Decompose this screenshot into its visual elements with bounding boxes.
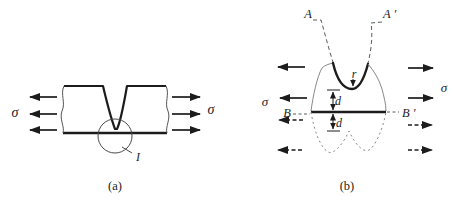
stress-arrows-right-b-dashed xyxy=(408,125,432,150)
blob-outline-bottom-dotted xyxy=(311,112,386,152)
radius-label: r xyxy=(352,67,357,81)
sigma-right-a: σ xyxy=(208,102,216,117)
plate-right-torn-edge xyxy=(166,86,169,133)
caption-b: (b) xyxy=(340,179,355,193)
depth-label-upper: d xyxy=(335,94,342,108)
sigma-right-b: σ xyxy=(441,80,448,95)
plate-top-edge-with-notch xyxy=(64,86,166,129)
figure-canvas: I σ σ (a) A A ′ xyxy=(0,0,454,209)
section-label-a-prime: A ′ xyxy=(382,7,397,21)
stress-arrows-right-b-solid xyxy=(408,68,433,98)
notch-flank-dashed-right xyxy=(368,22,382,63)
sigma-left-b: σ xyxy=(262,94,269,109)
section-label-b-prime: B ′ xyxy=(402,106,416,120)
blob-outline-top-left xyxy=(311,63,333,111)
inspection-circle xyxy=(98,119,132,153)
panel-a: I σ σ (a) xyxy=(12,86,216,193)
depth-label-lower: d xyxy=(336,116,343,130)
sigma-left-a: σ xyxy=(12,105,20,120)
notch-flank-dashed-left xyxy=(313,20,333,62)
caption-a: (a) xyxy=(108,179,122,193)
stress-arrows-left-a xyxy=(30,97,57,130)
stress-arrows-left-b-solid xyxy=(278,67,307,98)
stress-arrows-right-a xyxy=(172,97,200,130)
notch-stress-figure: I σ σ (a) A A ′ xyxy=(0,0,454,209)
notch-tip-curve xyxy=(333,63,368,89)
blob-outline-top-right xyxy=(368,64,386,111)
section-label-b: B xyxy=(283,106,291,120)
stress-arrows-left-b-dashed xyxy=(278,120,303,150)
plate-left-torn-edge xyxy=(61,86,64,133)
region-label: I xyxy=(135,150,141,164)
section-label-a: A xyxy=(303,7,312,21)
panel-b: A A ′ r d d B B ′ xyxy=(262,7,448,193)
